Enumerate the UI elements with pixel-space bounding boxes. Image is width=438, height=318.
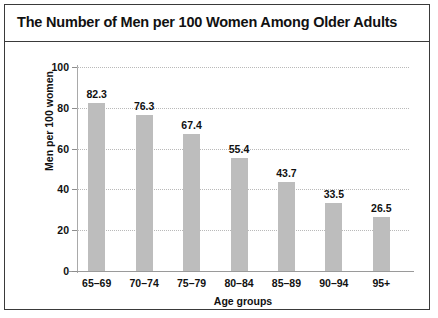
chart-title: The Number of Men per 100 Women Among Ol… xyxy=(17,14,397,30)
y-axis-tick-label: 0 xyxy=(35,266,69,276)
bar-value-label: 82.3 xyxy=(74,89,120,100)
bar-value-label: 55.4 xyxy=(216,144,262,155)
x-axis-category-label: 95+ xyxy=(353,277,409,289)
y-axis-tick-mark xyxy=(72,189,77,190)
bar xyxy=(325,203,342,271)
x-axis-line xyxy=(69,271,414,272)
bar xyxy=(278,182,295,271)
y-axis-tick-mark xyxy=(72,149,77,150)
chart-figure: The Number of Men per 100 Women Among Ol… xyxy=(4,4,430,310)
plot-area: 82.376.367.455.443.733.526.5 xyxy=(77,67,409,271)
y-axis-tick-mark xyxy=(72,108,77,109)
y-axis-tick-mark xyxy=(72,230,77,231)
bar-value-label: 76.3 xyxy=(121,101,167,112)
x-axis-title: Age groups xyxy=(77,295,409,307)
bar-value-label: 43.7 xyxy=(263,168,309,179)
bar xyxy=(231,158,248,271)
y-axis-tick-mark xyxy=(72,67,77,68)
bar xyxy=(136,115,153,271)
y-axis-tick-mark xyxy=(72,271,77,272)
y-axis-title: Men per 100 women xyxy=(43,56,55,186)
bar-value-label: 26.5 xyxy=(358,203,404,214)
bar xyxy=(373,217,390,271)
bar-value-label: 67.4 xyxy=(169,120,215,131)
bar xyxy=(183,134,200,271)
bar xyxy=(88,103,105,271)
gridline xyxy=(77,67,409,68)
bar-value-label: 33.5 xyxy=(311,189,357,200)
y-axis-tick-label: 20 xyxy=(35,225,69,235)
